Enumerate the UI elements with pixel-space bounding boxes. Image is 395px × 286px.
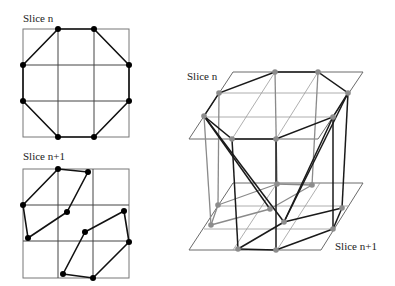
- contour-vertices: [20, 166, 132, 281]
- label-right-slice-n: Slice n: [187, 70, 218, 82]
- left-bottom-grid: [20, 166, 132, 281]
- label-left-slice-n-plus-1: Slice n+1: [23, 150, 65, 162]
- contour-polygon-1: [23, 169, 88, 238]
- octagon-vertices: [20, 26, 132, 140]
- label-left-slice-n: Slice n: [23, 12, 54, 24]
- slice-interpolation-diagram: Slice n Slice n+1: [0, 0, 395, 286]
- grid-border: [23, 29, 129, 137]
- contour-polygon-2: [63, 211, 129, 278]
- label-right-slice-n-plus-1: Slice n+1: [335, 240, 377, 252]
- grid-border: [23, 169, 129, 278]
- right-3d-view: Slice n Slice n+1: [187, 69, 377, 253]
- octagon-contour: [23, 29, 129, 137]
- gray-edges: [204, 72, 318, 225]
- left-top-grid: [20, 26, 132, 140]
